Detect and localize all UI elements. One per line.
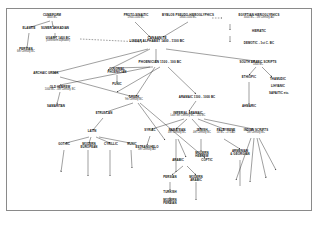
node-aramaic: ARAMAIC 1100 - 1000 BC: [179, 96, 215, 99]
node-date: 50 BC - 275 AD: [217, 132, 236, 135]
node-egyptian-hieroglyphics: EGYPTIAN HIEROGLYPHICS 3000 BC - 1st Cen…: [238, 14, 279, 20]
node-turkish: TURKISH: [163, 191, 176, 194]
node-date: 3400 BC: [43, 17, 61, 20]
node-subtitle: LINEAR ALPHABET 1400 - 1100 BC: [130, 40, 185, 43]
node-date: 3000 BC - 1st Century AD: [238, 17, 279, 20]
node-label: ETRUSCAN: [96, 112, 113, 115]
node-estranghelo: ESTRANGHELO 5th Century AD: [135, 146, 158, 152]
node-cuneiform: CUNEIFORM 3400 BC: [43, 14, 61, 20]
node-label: LIHYANIC: [271, 85, 285, 88]
node-thamudic: THAMUDIC: [270, 78, 286, 81]
node-date: 1900-1500 BC: [124, 17, 149, 20]
node-label: ARAMAIC 1100 - 1000 BC: [179, 96, 215, 99]
node-label: SAMARITAN: [47, 105, 65, 108]
node-hieratic: HIERATIC: [252, 30, 266, 33]
node-persian-from-arabic: PERSIAN: [163, 176, 176, 179]
node-label: TURKISH: [163, 191, 176, 194]
node-date: 1300 BC: [240, 64, 277, 67]
node-phoenician: PHOENICIAN 1100 - 100 BC: [139, 61, 182, 64]
node-samaritan: SAMARITAN: [47, 105, 65, 108]
node-ahmaric: AHMARIC: [242, 105, 256, 108]
node-date: 9th Century BC: [125, 99, 143, 102]
node-modern-arabic: MODERN ARABIC: [189, 176, 202, 182]
node-label-line2: PERSIAN: [163, 202, 176, 205]
node-old-hebrew: OLD HEBREW 1000 BC - 4th Century BC: [45, 86, 76, 92]
writing-systems-genealogy-diagram: CUNEIFORM 3400 BC ELAMITE SUMER-AKKADIAN…: [0, 0, 321, 237]
node-ugarit: UGARIT 1400 BC (cuneiform alphabet): [46, 37, 70, 43]
node-colonial-phoenician: COLONIAL PHOENICIAN: [108, 68, 127, 74]
node-label: SUMER-AKKADIAN: [41, 27, 69, 30]
node-date: 1000 BC - 4th Century BC: [45, 89, 76, 92]
node-arabic: ARABIC: [172, 159, 184, 162]
node-label: SAFAITIC etc.: [269, 92, 289, 95]
node-label: ETHIOPIC: [242, 76, 256, 79]
node-modern-persian: MODERN PERSIAN: [163, 199, 176, 205]
node-label-line2: & GEORGIAN: [230, 153, 249, 156]
node-punic: PUNIC: [112, 83, 121, 86]
node-byblos-pseudo-hieroglyphics: BYBLOS PSEUDO-HIEROGLYPHICS 1800-1500 BC: [162, 14, 214, 20]
node-palmyrene: PALMYRENE 50 BC - 275 AD: [217, 129, 236, 135]
node-label: COPTIC: [201, 159, 212, 162]
node-south-arabic-scripts: SOUTH ARABIC SCRIPTS 1300 BC: [240, 61, 277, 67]
node-date: 5th Century AD: [135, 149, 158, 152]
node-label: ARABIC: [172, 159, 184, 162]
node-date: 4th Century BC: [193, 132, 211, 135]
node-elamite: ELAMITE: [22, 27, 35, 30]
node-canaanite-linear-alphabet: CANAANITE LINEAR ALPHABET 1400 - 1100 BC: [130, 37, 185, 43]
node-label: DEMOTIC - 1st C. BC: [244, 42, 274, 45]
node-date: (cuneiform alphabet): [46, 40, 70, 43]
node-label: ARCHAIC GREEK: [33, 72, 58, 75]
node-modern-european: MODERN EUROPEAN: [80, 143, 97, 149]
node-archaic-greek: ARCHAIC GREEK: [33, 72, 58, 75]
node-date: 4th Century BC: [168, 132, 186, 135]
node-date: Late 8th Century BC - 200 BC: [171, 115, 206, 118]
node-label: CYRILLIC: [104, 143, 118, 146]
node-demotic: DEMOTIC - 1st C. BC: [244, 42, 274, 45]
node-safaitic: SAFAITIC etc.: [269, 92, 289, 95]
node-persian-old: PERSIAN 6th Century BC: [17, 48, 35, 54]
node-date: 5th Century BC: [244, 132, 268, 135]
node-proto-sinaitic: PROTO-SINAITIC 1900-1500 BC: [124, 14, 149, 20]
node-coptic: COPTIC: [201, 159, 212, 162]
node-label: LATIN: [88, 130, 97, 133]
node-lihyanic: LIHYANIC: [271, 85, 285, 88]
node-label: HIERATIC: [252, 30, 266, 33]
node-label-line2: ARABIC: [189, 179, 202, 182]
node-label: GOTHIC: [58, 143, 70, 146]
node-jewish: JEWISH 4th Century BC: [193, 129, 211, 135]
node-label: PHOENICIAN 1100 - 100 BC: [139, 61, 182, 64]
node-label: PERSIAN: [163, 176, 176, 179]
node-nabatean: NABATEAN 4th Century BC: [168, 129, 186, 135]
node-label: ELAMITE: [22, 27, 35, 30]
node-indian-scripts: INDIAN SCRIPTS 5th Century BC: [244, 129, 268, 135]
node-armenian-georgian: ARMENIAN & GEORGIAN: [230, 150, 249, 156]
node-greek: GREEK 9th Century BC: [125, 96, 143, 102]
node-label-line2: PHOENICIAN: [108, 71, 127, 74]
node-etruscan: ETRUSCAN: [96, 112, 113, 115]
node-ethiopic: ETHIOPIC: [242, 76, 256, 79]
node-label: AHMARIC: [242, 105, 256, 108]
node-latin: LATIN: [88, 130, 97, 133]
node-syriac: SYRIAC: [144, 129, 155, 132]
node-sumer-akkadian: SUMER-AKKADIAN: [41, 27, 69, 30]
node-cyrillic: CYRILLIC: [104, 143, 118, 146]
node-imperial-aramaic: IMPERIAL ARAMAIC Late 8th Century BC - 2…: [171, 112, 206, 118]
node-label-line2: EUROPEAN: [80, 146, 97, 149]
node-date: 1800-1500 BC: [162, 17, 214, 20]
node-gothic: GOTHIC: [58, 143, 70, 146]
node-label: THAMUDIC: [270, 78, 286, 81]
node-date: 6th Century BC: [17, 51, 35, 54]
node-label: SYRIAC: [144, 129, 155, 132]
node-label: PUNIC: [112, 83, 121, 86]
